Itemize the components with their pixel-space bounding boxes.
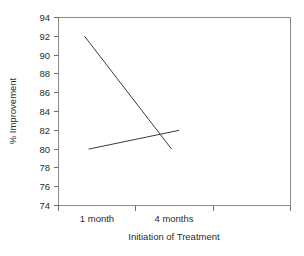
y-tick-label-90: 90: [39, 50, 50, 61]
interaction-plot-figure: 94 92 90 88 86 84 82 80 78 76 74 1 month…: [0, 0, 304, 256]
x-axis-title: Initiation of Treatment: [128, 231, 220, 242]
y-tick-label-80: 80: [39, 144, 50, 155]
y-tick-label-86: 86: [39, 87, 50, 98]
chart-canvas: 94 92 90 88 86 84 82 80 78 76 74 1 month…: [0, 0, 304, 256]
x-category-label-1-month: 1 month: [80, 213, 114, 224]
y-tick-label-76: 76: [39, 181, 50, 192]
y-tick-label-88: 88: [39, 68, 50, 79]
y-tick-label-82: 82: [39, 125, 50, 136]
x-category-label-4-months: 4 months: [154, 213, 193, 224]
y-tick-label-94: 94: [39, 12, 50, 23]
y-tick-label-74: 74: [39, 200, 50, 211]
y-tick-label-92: 92: [39, 31, 50, 42]
y-tick-label-84: 84: [39, 106, 50, 117]
y-tick-label-78: 78: [39, 162, 50, 173]
y-axis-title: % Improvement: [7, 77, 18, 144]
